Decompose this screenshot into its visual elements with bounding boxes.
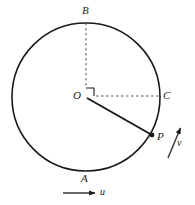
vector-label-u: u: [100, 187, 105, 197]
radius-segment-op: [87, 98, 152, 135]
point-label-a: A: [81, 173, 88, 184]
geometry-diagram: B O C P A u v: [0, 0, 195, 205]
point-marker-p: [150, 133, 155, 138]
point-label-p: P: [157, 131, 164, 142]
point-label-c: C: [163, 90, 170, 101]
vector-label-v: v: [177, 138, 181, 148]
point-label-o: O: [73, 90, 81, 101]
point-label-b: B: [82, 5, 89, 16]
diagram-canvas: [0, 0, 195, 205]
right-angle-marker: [86, 88, 94, 96]
